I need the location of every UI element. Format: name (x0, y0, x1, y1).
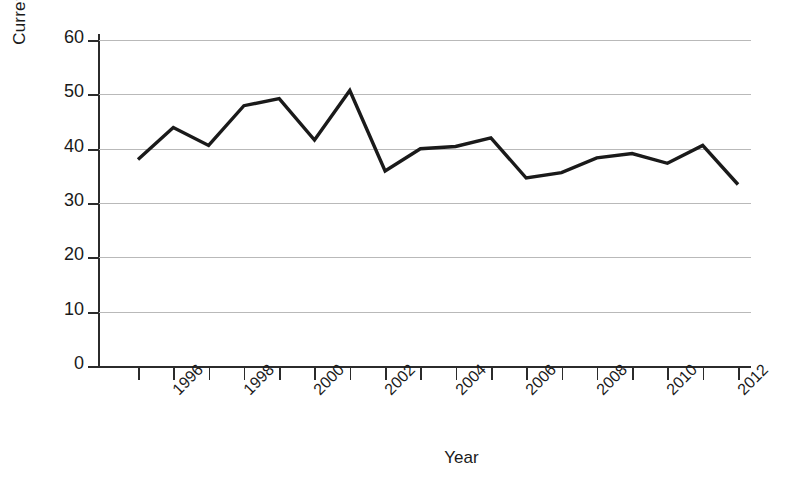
x-tick (703, 368, 705, 380)
y-tick-label: 60 (44, 27, 84, 48)
x-tick (491, 368, 493, 380)
plot-area (99, 30, 751, 366)
x-axis-title: Year (0, 448, 803, 468)
y-tick (88, 94, 99, 96)
grid-line (99, 257, 751, 258)
x-tick (667, 368, 669, 380)
x-tick (350, 368, 352, 380)
x-tick (597, 368, 599, 380)
y-tick (88, 149, 99, 151)
y-tick-label: 50 (44, 81, 84, 102)
grid-line (99, 312, 751, 313)
y-tick-label: 10 (44, 299, 84, 320)
y-tick-label: 0 (44, 353, 84, 374)
y-tick (88, 312, 99, 314)
x-tick (279, 368, 281, 380)
y-tick-label: 30 (44, 190, 84, 211)
y-tick (88, 40, 99, 42)
x-tick (385, 368, 387, 380)
x-tick (420, 368, 422, 380)
grid-line (99, 149, 751, 150)
y-tick (88, 203, 99, 205)
x-tick (738, 368, 740, 380)
y-tick (88, 366, 99, 368)
x-tick (562, 368, 564, 380)
grid-line (99, 94, 751, 95)
x-axis-title-text: Year (444, 448, 478, 467)
y-tick-label: 40 (44, 136, 84, 157)
grid-line (99, 40, 751, 41)
x-tick (173, 368, 175, 380)
y-tick (88, 257, 99, 259)
grid-line (99, 203, 751, 204)
y-tick-label: 20 (44, 244, 84, 265)
x-tick (526, 368, 528, 380)
chart-figure: Currency/M1 0102030405060 19961998200020… (0, 0, 803, 483)
x-tick (209, 368, 211, 380)
x-tick (244, 368, 246, 380)
y-axis-title: Currency/M1 (10, 0, 30, 95)
x-tick (456, 368, 458, 380)
x-tick (632, 368, 634, 380)
x-tick (314, 368, 316, 380)
x-tick (138, 368, 140, 380)
